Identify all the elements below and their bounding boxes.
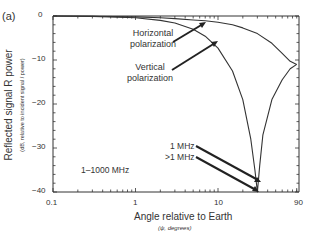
annotation-text: Vertical (127, 62, 173, 73)
annotation-text: Horizontal (130, 28, 176, 39)
x-axis-subtitle: (ψ, degrees) (158, 225, 191, 231)
x-axis-title: Angle relative to Earth (134, 211, 232, 222)
ytick-label: −10 (32, 54, 46, 63)
annotation-horizontal: Horizontal polarization (130, 28, 176, 50)
panel-label: (a) (2, 10, 15, 22)
annotation-range: 1–1000 MHz (81, 165, 129, 175)
annotation-vertical: Vertical polarization (127, 62, 173, 84)
annotation-arrows (172, 24, 258, 190)
xtick-label: 90 (294, 198, 303, 207)
annotation-text: polarization (130, 39, 176, 50)
annotation-gt1mhz: >1 MHz (165, 152, 195, 162)
xtick-label: 10 (214, 198, 223, 207)
ytick-label: −40 (32, 186, 46, 195)
y-axis-title: Reflected signal R power (3, 49, 14, 160)
ytick-label: 0 (38, 10, 42, 19)
annotation-1mhz: 1 MHz (170, 141, 195, 151)
ytick-label: −30 (32, 142, 46, 151)
y-axis-subtitle: (dB, relative to incident signal / power… (19, 58, 25, 151)
xtick-label: 1 (133, 198, 137, 207)
ytick-label: −20 (32, 98, 46, 107)
annotation-text: polarization (127, 73, 173, 84)
xtick-label: 0.1 (46, 198, 57, 207)
